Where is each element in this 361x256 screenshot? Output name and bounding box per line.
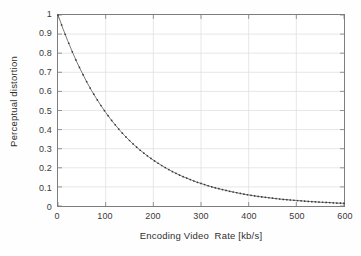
y-tick-label: 0.2 bbox=[39, 163, 52, 173]
y-tick-label: 0 bbox=[47, 202, 52, 212]
chart-figure: 00.10.20.30.40.50.60.70.80.91 0100200300… bbox=[0, 0, 361, 256]
x-tick-label: 400 bbox=[241, 211, 257, 221]
x-tick-label: 500 bbox=[289, 211, 305, 221]
data-series-curve bbox=[58, 15, 344, 206]
x-tick-label: 0 bbox=[54, 211, 59, 221]
x-axis-tick-labels: 0100200300400500600 bbox=[57, 211, 345, 225]
x-tick-label: 200 bbox=[145, 211, 161, 221]
y-tick-label: 0.9 bbox=[39, 28, 52, 38]
x-tick-label: 100 bbox=[97, 211, 113, 221]
y-tick-label: 0.1 bbox=[39, 183, 52, 193]
y-tick-label: 1 bbox=[47, 9, 52, 19]
y-tick-label: 0.7 bbox=[39, 67, 52, 77]
y-tick-label: 0.3 bbox=[39, 144, 52, 154]
y-tick-label: 0.8 bbox=[39, 48, 52, 58]
x-tick-label: 600 bbox=[337, 211, 353, 221]
y-tick-label: 0.4 bbox=[39, 125, 52, 135]
y-tick-label: 0.6 bbox=[39, 86, 52, 96]
x-axis-title: Encoding Video Rate [kb/s] bbox=[57, 230, 345, 241]
plot-area bbox=[57, 14, 345, 207]
y-tick-label: 0.5 bbox=[39, 106, 52, 116]
x-tick-label: 300 bbox=[193, 211, 209, 221]
y-axis-title: Perceptual distortion bbox=[8, 27, 19, 177]
